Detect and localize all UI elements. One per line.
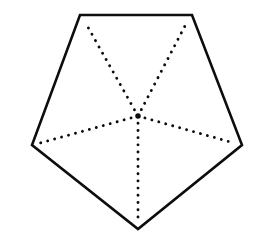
figure-canvas: [0, 0, 253, 244]
pentagon-diagram: [0, 0, 253, 244]
center-point: [135, 113, 141, 119]
